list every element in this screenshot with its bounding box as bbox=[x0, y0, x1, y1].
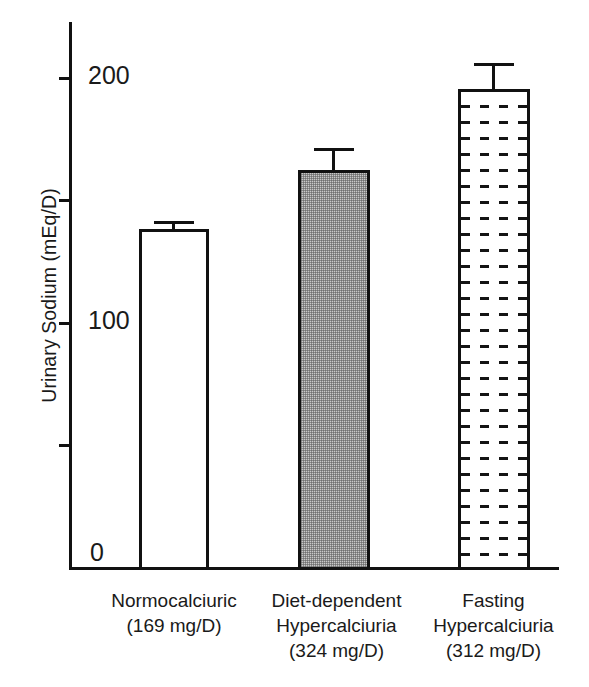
bar-normocalciuric[interactable] bbox=[139, 229, 209, 570]
x-label-diet-dependent-line-3: (324 mg/D) bbox=[255, 638, 418, 663]
bar-chart-figure: Urinary Sodium (mEq/D) 200 100 0 Normoca… bbox=[0, 0, 589, 687]
y-tick-150 bbox=[59, 199, 70, 202]
y-tick-50 bbox=[59, 444, 70, 447]
x-label-fasting-line-2: Hypercalciuria bbox=[412, 613, 575, 638]
y-tick-label-0: 0 bbox=[90, 540, 104, 565]
x-label-fasting-line-1: Fasting bbox=[412, 588, 575, 613]
x-label-fasting-line-3: (312 mg/D) bbox=[412, 638, 575, 663]
error-bar-stem-fasting-hypercalciuria bbox=[492, 63, 495, 92]
y-axis-title: Urinary Sodium (mEq/D) bbox=[38, 131, 61, 461]
x-label-normocalciuric-line-2: (169 mg/D) bbox=[79, 613, 269, 638]
x-label-diet-dependent-hypercalciuria: Diet-dependent Hypercalciuria (324 mg/D) bbox=[255, 588, 418, 663]
y-tick-200 bbox=[59, 77, 70, 80]
x-label-fasting-hypercalciuria: Fasting Hypercalciuria (312 mg/D) bbox=[412, 588, 575, 663]
x-label-diet-dependent-line-2: Hypercalciuria bbox=[255, 613, 418, 638]
y-tick-100 bbox=[59, 322, 70, 325]
y-tick-label-100: 100 bbox=[88, 308, 130, 333]
y-axis-line bbox=[69, 22, 72, 570]
x-label-normocalciuric: Normocalciuric (169 mg/D) bbox=[79, 588, 269, 638]
x-label-diet-dependent-line-1: Diet-dependent bbox=[255, 588, 418, 613]
x-label-normocalciuric-line-1: Normocalciuric bbox=[79, 588, 269, 613]
y-tick-label-200: 200 bbox=[88, 63, 130, 88]
bar-diet-dependent-hypercalciuria[interactable] bbox=[298, 170, 370, 570]
bar-fasting-hypercalciuria[interactable] bbox=[458, 89, 530, 570]
